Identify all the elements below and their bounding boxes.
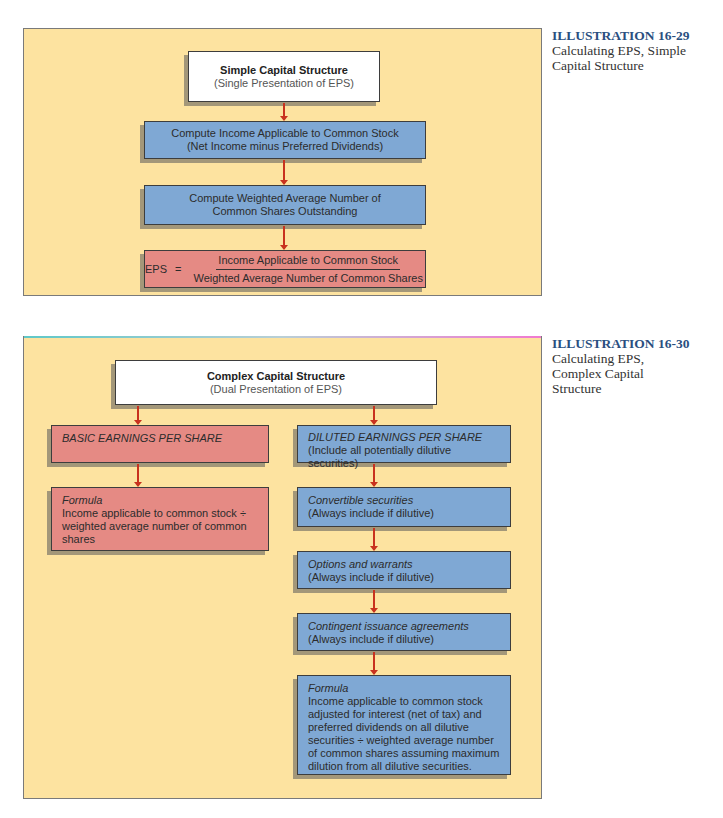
- header-subtitle: (Dual Presentation of EPS): [116, 383, 436, 396]
- illustration-16-29-caption: ILLUSTRATION 16-29 Calculating EPS, Simp…: [552, 28, 689, 73]
- panel-top-border: [24, 336, 541, 338]
- illustration-number: ILLUSTRATION 16-30: [552, 336, 689, 351]
- eps-label: EPS: [145, 263, 167, 276]
- complex-capital-structure-panel: Complex Capital Structure (Dual Presenta…: [23, 336, 542, 799]
- header-title: Simple Capital Structure: [189, 64, 379, 77]
- step-note: (Always include if dilutive): [308, 571, 500, 584]
- caption-line: Structure: [552, 381, 689, 396]
- step-line-1: Compute Income Applicable to Common Stoc…: [145, 127, 425, 140]
- formula-line: preferred dividends on all dilutive: [308, 721, 500, 734]
- formula-line: Income applicable to common stock ÷: [62, 507, 258, 520]
- contingent-issuance-box: Contingent issuance agreements (Always i…: [297, 613, 511, 651]
- arrow-down-icon: [373, 590, 375, 612]
- eps-fraction: Income Applicable to Common Stock Weight…: [191, 254, 425, 285]
- caption-line: Calculating EPS,: [552, 351, 689, 366]
- diluted-eps-formula-box: Formula Income applicable to common stoc…: [297, 675, 511, 775]
- convertible-securities-box: Convertible securities (Always include i…: [297, 487, 511, 527]
- header-title: Complex Capital Structure: [116, 370, 436, 383]
- basic-eps-title: BASIC EARNINGS PER SHARE: [62, 432, 258, 445]
- fraction-numerator: Income Applicable to Common Stock: [216, 254, 400, 270]
- step-label: Contingent issuance agreements: [308, 620, 500, 633]
- arrow-down-icon: [373, 406, 375, 424]
- formula-line: shares: [62, 533, 258, 546]
- header-subtitle: (Single Presentation of EPS): [189, 77, 379, 90]
- formula-line: securities ÷ weighted average number: [308, 734, 500, 747]
- arrow-down-icon: [283, 226, 285, 249]
- formula-line: adjusted for interest (net of tax) and: [308, 708, 500, 721]
- arrow-down-icon: [137, 464, 139, 486]
- basic-eps-formula-box: Formula Income applicable to common stoc…: [51, 487, 269, 551]
- simple-capital-structure-panel: Simple Capital Structure (Single Present…: [23, 28, 542, 296]
- formula-label: Formula: [62, 494, 258, 507]
- formula-label: Formula: [308, 682, 500, 695]
- compute-weighted-average-box: Compute Weighted Average Number of Commo…: [144, 185, 426, 225]
- step-label: Options and warrants: [308, 558, 500, 571]
- eps-formula-box: EPS = Income Applicable to Common Stock …: [144, 250, 426, 288]
- step-note: (Always include if dilutive): [308, 633, 500, 646]
- diluted-eps-subtitle: (Include all potentially dilutive securi…: [308, 444, 500, 470]
- formula-line: weighted average number of common: [62, 520, 258, 533]
- caption-line: Calculating EPS, Simple: [552, 43, 689, 58]
- arrow-down-icon: [283, 103, 285, 120]
- simple-capital-structure-header-box: Simple Capital Structure (Single Present…: [188, 51, 380, 102]
- arrow-down-icon: [283, 160, 285, 184]
- arrow-down-icon: [373, 652, 375, 674]
- arrow-down-icon: [137, 406, 139, 424]
- basic-eps-box: BASIC EARNINGS PER SHARE: [51, 425, 269, 463]
- step-label: Convertible securities: [308, 494, 500, 507]
- step-line-2: (Net Income minus Preferred Dividends): [145, 140, 425, 153]
- options-and-warrants-box: Options and warrants (Always include if …: [297, 551, 511, 589]
- caption-line: Capital Structure: [552, 58, 689, 73]
- equals-sign: =: [175, 263, 181, 276]
- step-line-1: Compute Weighted Average Number of: [145, 192, 425, 205]
- arrow-down-icon: [373, 464, 375, 486]
- arrow-down-icon: [373, 528, 375, 550]
- illustration-16-30-caption: ILLUSTRATION 16-30 Calculating EPS, Comp…: [552, 336, 689, 396]
- formula-line: Income applicable to common stock: [308, 695, 500, 708]
- fraction-denominator: Weighted Average Number of Common Shares: [191, 270, 425, 285]
- formula-line: of common shares assuming maximum: [308, 747, 500, 760]
- caption-line: Complex Capital: [552, 366, 689, 381]
- diluted-eps-title: DILUTED EARNINGS PER SHARE: [308, 431, 500, 444]
- complex-capital-structure-header-box: Complex Capital Structure (Dual Presenta…: [115, 360, 437, 405]
- step-line-2: Common Shares Outstanding: [145, 205, 425, 218]
- step-note: (Always include if dilutive): [308, 507, 500, 520]
- compute-income-box: Compute Income Applicable to Common Stoc…: [144, 121, 426, 159]
- formula-line: dilution from all dilutive securities.: [308, 760, 500, 773]
- illustration-number: ILLUSTRATION 16-29: [552, 28, 689, 43]
- diluted-eps-box: DILUTED EARNINGS PER SHARE (Include all …: [297, 425, 511, 463]
